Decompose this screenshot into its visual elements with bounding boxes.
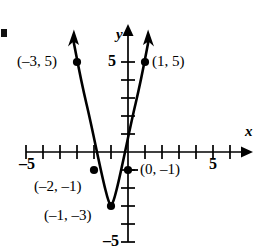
x-axis-arrow-icon — [241, 147, 253, 158]
y-axis-arrow-icon — [123, 24, 134, 36]
x-axis — [26, 145, 253, 159]
point-label-neg2-neg1: (–2, –1) — [34, 179, 82, 194]
corner-mark-icon — [1, 29, 7, 37]
point-label-neg3-5: (–3, 5) — [17, 54, 57, 69]
plotted-points — [73, 58, 149, 210]
x-tick-label-5: 5 — [209, 156, 217, 172]
point-1-5 — [141, 58, 149, 66]
point-neg2-neg1 — [90, 166, 98, 174]
y-axis-name: y — [116, 27, 123, 42]
y-tick-label-5: 5 — [108, 53, 116, 69]
point-label-0-neg1: (0, –1) — [140, 162, 180, 177]
x-tick-label-neg5: –5 — [19, 156, 35, 172]
y-tick-label-neg5: –5 — [103, 233, 119, 249]
figure-canvas: (–3, 5) (1, 5) (–2, –1) (0, –1) (–1, –3)… — [0, 0, 266, 252]
point-neg3-5 — [73, 58, 81, 66]
point-neg1-neg3 — [107, 202, 115, 210]
point-label-1-5: (1, 5) — [152, 54, 185, 69]
point-label-neg1-neg3: (–1, –3) — [44, 208, 92, 223]
x-axis-name: x — [245, 124, 253, 139]
coordinate-plane-graphic — [0, 0, 266, 252]
